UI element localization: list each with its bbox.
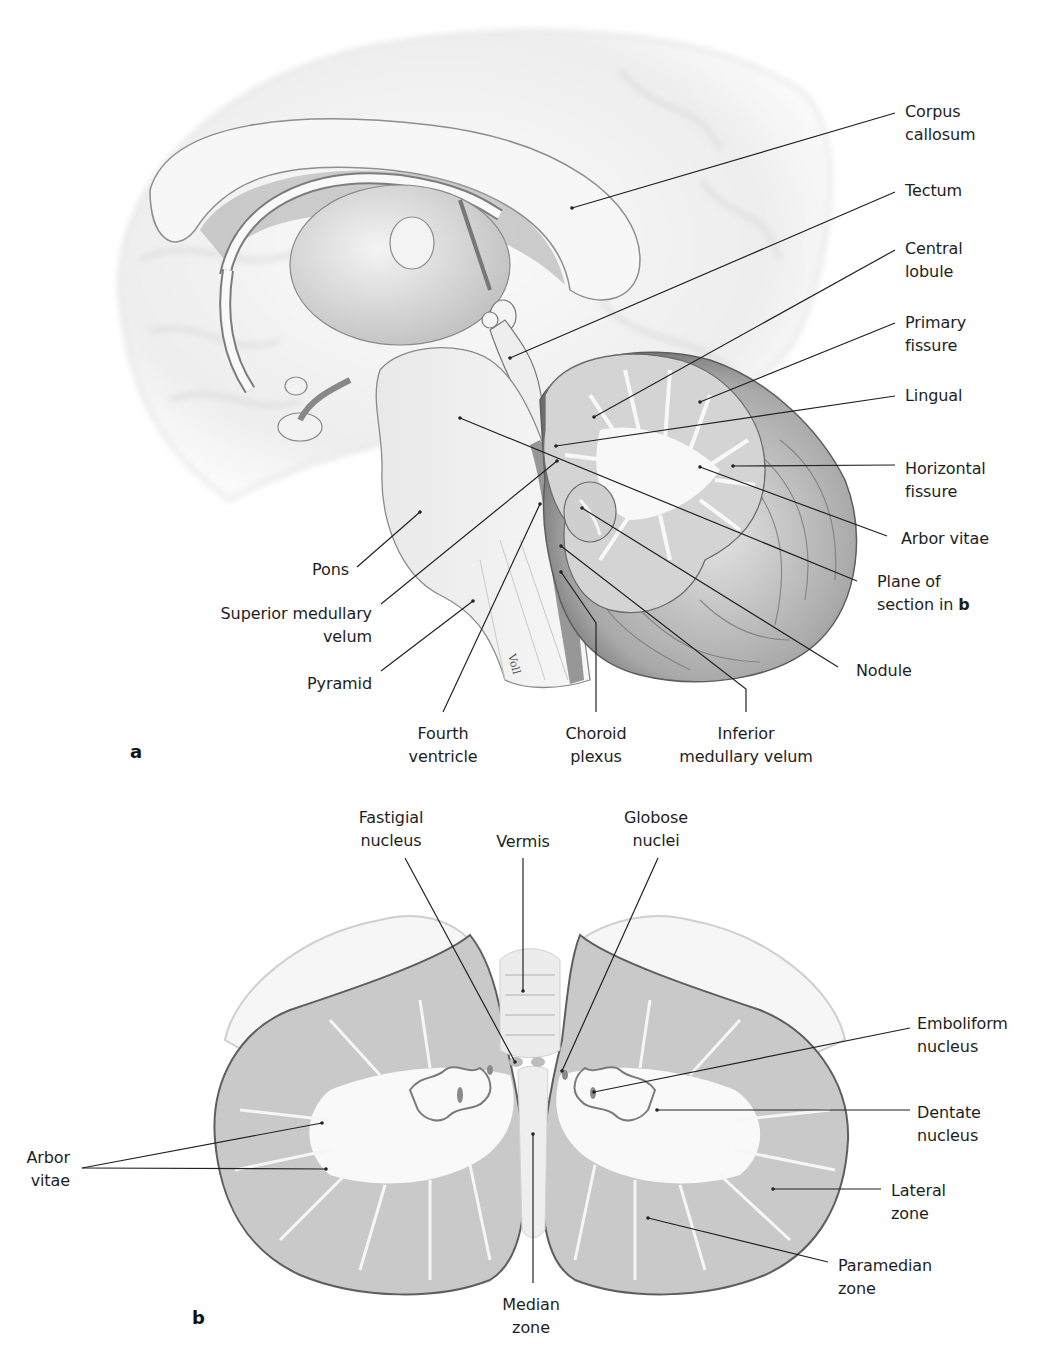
label-inferior-medullary-velum: Inferior medullary velum [679, 722, 813, 768]
label-paramedian-zone: Paramedian zone [838, 1254, 932, 1300]
leader-dot-horizontal-fissure [731, 464, 735, 468]
label-arbor-vitae-b: Arbor vitae [26, 1146, 70, 1192]
label-dentate-nucleus: Dentate nucleus [917, 1101, 981, 1147]
leader-dot-arbor-vitae-b-1 [320, 1121, 324, 1125]
leader-dot-fastigial-nucleus [513, 1060, 517, 1064]
leader-dot-plane-of-section [458, 416, 462, 420]
label-choroid-plexus: Choroid plexus [565, 722, 626, 768]
label-central-lobule: Central lobule [905, 237, 963, 283]
leader-dot-pyramid [471, 599, 475, 603]
leader-dot-globose-nuclei [560, 1069, 564, 1073]
leader-dot-dentate-nucleus [655, 1108, 659, 1112]
panel-reference: b [958, 595, 969, 614]
label-pons: Pons [312, 558, 349, 581]
label-pyramid: Pyramid [307, 672, 372, 695]
label-median-zone: Median zone [502, 1293, 560, 1339]
leader-dot-superior-medullary-velum [555, 459, 559, 463]
label-fourth-ventricle: Fourth ventricle [409, 722, 478, 768]
leader-dot-arbor-vitae-a [698, 465, 702, 469]
leader-dot-emboliform-nucleus [592, 1090, 596, 1094]
leader-dot-choroid-plexus [559, 570, 563, 574]
panel-a-art [119, 31, 856, 687]
label-lateral-zone: Lateral zone [891, 1179, 946, 1225]
leader-dot-lingual [554, 444, 558, 448]
label-globose-nuclei: Globose nuclei [624, 806, 688, 852]
panel-b-art [214, 916, 848, 1294]
leader-dot-paramedian-zone [646, 1216, 650, 1220]
leader-pyramid [381, 601, 473, 671]
label-emboliform-nucleus: Emboliform nucleus [917, 1012, 1008, 1058]
panel-letter-a: a [130, 741, 142, 762]
label-plane-of-section: Plane of section in b [877, 570, 970, 616]
leader-dot-inferior-medullary-velum [559, 544, 563, 548]
leader-dot-primary-fissure [698, 400, 702, 404]
label-fastigial-nucleus: Fastigial nucleus [359, 806, 424, 852]
leader-dot-vermis [521, 989, 525, 993]
label-primary-fissure: Primary fissure [905, 311, 966, 357]
label-corpus-callosum: Corpus callosum [905, 100, 976, 146]
label-vermis: Vermis [496, 830, 550, 853]
label-tectum: Tectum [905, 179, 962, 202]
anatomy-illustration: Voll [0, 0, 1038, 1364]
leader-dot-fourth-ventricle [538, 502, 542, 506]
leader-dot-corpus-callosum [570, 206, 574, 210]
cerebellum-figure: Voll a b Corpus callosumTectumCentral lo… [0, 0, 1038, 1364]
panel-letter-b: b [192, 1307, 205, 1328]
label-arbor-vitae-a: Arbor vitae [901, 527, 989, 550]
leader-dot-arbor-vitae-b-2 [324, 1167, 328, 1171]
leader-dot-median-zone [531, 1132, 535, 1136]
label-nodule: Nodule [856, 659, 912, 682]
leader-dot-nodule [580, 506, 584, 510]
label-superior-medullary-velum: Superior medullary velum [221, 602, 372, 648]
leader-dot-central-lobule [592, 415, 596, 419]
leader-dot-lateral-zone [771, 1187, 775, 1191]
leader-dot-pons [418, 510, 422, 514]
label-horizontal-fissure: Horizontal fissure [905, 457, 986, 503]
label-lingual: Lingual [905, 384, 962, 407]
leader-dot-tectum [508, 356, 512, 360]
